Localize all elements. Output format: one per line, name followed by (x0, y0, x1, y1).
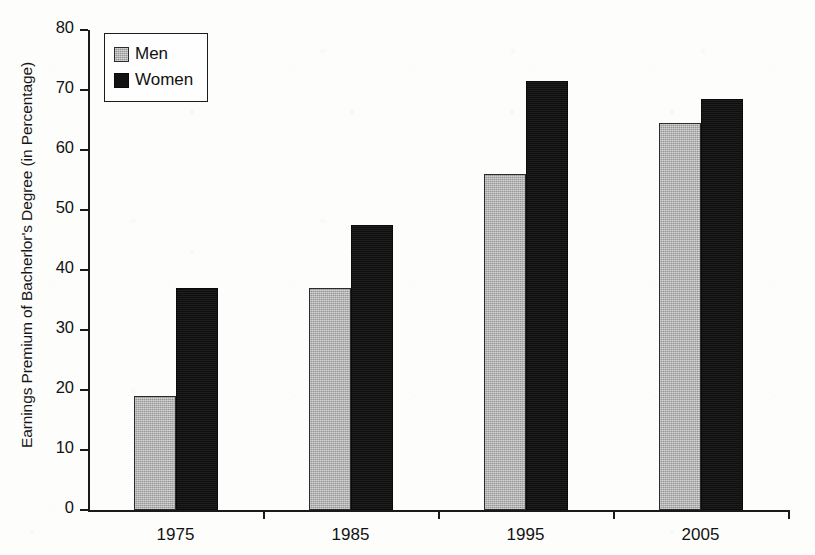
y-axis-tick-mark (80, 149, 88, 151)
y-axis-tick-mark (80, 389, 88, 391)
x-axis-tick-label: 1995 (466, 525, 586, 545)
bar-men-1995 (484, 174, 526, 510)
bar-men-1985 (309, 288, 351, 510)
bar-men-2005 (659, 123, 701, 510)
plot-area: 01020304050607080 1975198519952005 (88, 30, 788, 510)
bar-women-1995 (526, 81, 568, 510)
x-axis-tick-mark (438, 510, 440, 519)
y-axis-tick-label: 0 (65, 498, 74, 517)
y-axis-tick-label: 80 (56, 18, 74, 37)
bar-women-2005 (701, 99, 743, 510)
bar-women-1985 (351, 225, 393, 510)
bar-chart: Earnings Premium of Bacherlor's Degree (… (0, 0, 815, 555)
y-axis-tick-label: 60 (56, 138, 74, 157)
y-axis-tick-mark (80, 329, 88, 331)
y-axis-tick-mark (80, 269, 88, 271)
y-axis-line (88, 30, 90, 511)
y-axis-tick-label: 10 (56, 438, 74, 457)
y-axis-title: Earnings Premium of Bacherlor's Degree (… (12, 0, 42, 515)
chart-legend: MenWomen (104, 33, 208, 102)
y-axis-tick-label: 70 (56, 78, 74, 97)
legend-item-women: Women (114, 67, 193, 93)
x-axis-tick-label: 2005 (641, 525, 761, 545)
y-axis-tick-mark (80, 449, 88, 451)
y-axis-tick-label: 50 (56, 198, 74, 217)
x-axis-tick-mark (788, 510, 790, 519)
y-axis-tick-mark (80, 209, 88, 211)
x-axis-tick-mark (263, 510, 265, 519)
legend-label: Women (135, 70, 193, 90)
legend-label: Men (135, 44, 168, 64)
legend-swatch-women-icon (114, 73, 129, 88)
y-axis-tick-mark (80, 509, 88, 511)
y-axis-tick-label: 20 (56, 378, 74, 397)
bar-women-1975 (176, 288, 218, 510)
y-axis-tick-label: 30 (56, 318, 74, 337)
x-axis-tick-label: 1985 (291, 525, 411, 545)
y-axis-tick-mark (80, 89, 88, 91)
y-axis-tick-label: 40 (56, 258, 74, 277)
legend-item-men: Men (114, 41, 193, 67)
x-axis-tick-mark (613, 510, 615, 519)
bar-men-1975 (134, 396, 176, 510)
legend-swatch-men-icon (114, 47, 129, 62)
y-axis-tick-mark (80, 29, 88, 31)
x-axis-tick-label: 1975 (116, 525, 236, 545)
